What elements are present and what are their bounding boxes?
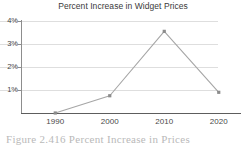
data-point-marker — [54, 111, 57, 114]
data-point-marker — [217, 91, 220, 94]
data-series-svg — [0, 14, 246, 114]
series-markers-group — [54, 30, 221, 115]
series-line-percent-increase — [55, 31, 219, 113]
figure-container: Percent Increase in Widget Prices 4%3%2%… — [0, 0, 246, 145]
x-axis-tick-labels: 1990200020102020 — [0, 117, 246, 129]
chart-title: Percent Increase in Widget Prices — [0, 1, 246, 11]
x-axis-tick-label: 2000 — [101, 117, 119, 126]
chart-plot-region: 4%3%2%1% — [0, 14, 246, 114]
x-axis-tick-label: 1990 — [46, 117, 64, 126]
x-axis-tick-label: 2020 — [210, 117, 228, 126]
data-point-marker — [163, 30, 166, 33]
data-point-marker — [108, 94, 111, 97]
x-axis-tick-label: 2010 — [155, 117, 173, 126]
figure-caption: Figure 2.416 Percent Increase in Prices — [6, 133, 246, 145]
